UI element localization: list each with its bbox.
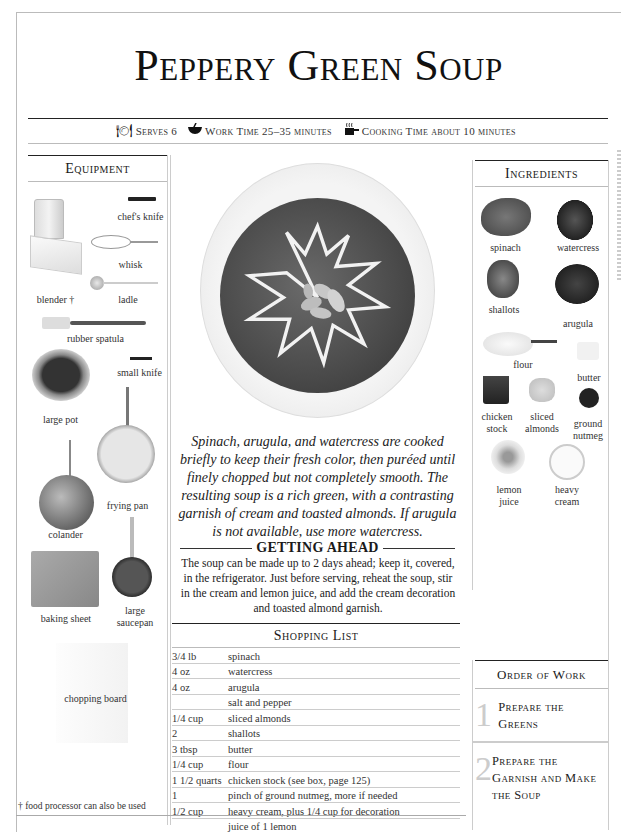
equipment-label-frying-pan: frying pan	[100, 500, 155, 512]
shopping-row: salt and pepper	[172, 695, 460, 711]
colander-image	[39, 475, 94, 530]
serves-info: 🍽 Serves 6	[116, 123, 177, 139]
equipment-label-large-pot: large pot	[33, 414, 88, 426]
step-text: Prepare the Garnish and Make the Soup	[492, 753, 604, 804]
equipment-label-baking-sheet: baking sheet	[30, 613, 102, 625]
ingredient-label-butter: butter	[569, 372, 609, 384]
chicken-stock-image	[483, 376, 509, 404]
ingredient-label-flour: flour	[503, 359, 543, 371]
shopping-row: 4 ozarugula	[172, 679, 460, 695]
lemon-juice-image	[491, 440, 525, 474]
qty: 1/4 cup	[172, 713, 228, 724]
equipment-footnote: † food processor can also be used	[18, 801, 146, 811]
qty: 1/4 cup	[172, 759, 228, 770]
equipment-label-large-saucepan: large saucepan	[110, 605, 160, 628]
shopping-row: 1 1/2 quartschicken stock (see box, page…	[172, 772, 460, 788]
cream-star-garnish-image	[240, 220, 395, 375]
flour-image	[483, 332, 533, 356]
equipment-label-ladle: ladle	[108, 294, 148, 306]
watercress-image	[557, 200, 593, 240]
getting-ahead-text: The soup can be made up to 2 days ahead;…	[178, 556, 458, 616]
frying-pan-handle-image	[126, 387, 129, 429]
shallots-image	[487, 260, 519, 298]
ground-nutmeg-image	[579, 388, 599, 408]
equipment-label-rubber-spatula: rubber spatula	[53, 333, 138, 345]
qty: 4 oz	[172, 666, 228, 677]
ladle-image	[90, 276, 104, 290]
rule-left	[180, 548, 252, 549]
step-number: 2	[475, 753, 492, 804]
small-knife-image	[130, 357, 152, 360]
arugula-image	[555, 264, 599, 304]
ingredient-label-watercress: watercress	[549, 242, 607, 254]
order-of-work-section: Order of Work 1 Prepare the Greens 2 Pre…	[472, 660, 608, 830]
shopping-list: Shopping List 3/4 lbspinach 4 ozwatercre…	[172, 623, 460, 832]
item: juice of 1 lemon	[228, 821, 460, 832]
column-divider	[170, 155, 171, 825]
qty: 1	[172, 790, 228, 801]
item: pinch of ground nutmeg, more if needed	[228, 790, 460, 801]
order-step-1[interactable]: 1 Prepare the Greens	[473, 689, 608, 743]
blender-base-image	[30, 235, 82, 274]
whisk-handle-image	[130, 241, 158, 243]
item: arugula	[228, 682, 460, 693]
chefs-knife-image	[128, 197, 156, 201]
rule-right	[383, 548, 455, 549]
qty: 1 1/2 quarts	[172, 775, 228, 786]
ingredient-label-sliced-almonds: sliced almonds	[521, 411, 563, 434]
step-text: Prepare the Greens	[498, 699, 604, 733]
blender-image	[34, 199, 64, 239]
qty: 2	[172, 728, 228, 739]
large-saucepan-handle-image	[130, 517, 134, 561]
ingredient-label-shallots: shallots	[483, 304, 525, 316]
steaming-pot-icon	[342, 122, 360, 140]
ingredient-label-lemon-juice: lemon juice	[491, 484, 527, 507]
large-saucepan-image	[112, 557, 152, 597]
recipe-title: Peppery Green Soup	[16, 40, 621, 91]
shopping-row: 1/4 cupflour	[172, 757, 460, 773]
spinach-image	[481, 198, 531, 236]
baking-sheet-image	[31, 551, 99, 607]
ingredient-label-spinach: spinach	[483, 242, 528, 254]
shopping-row: 1/4 cupsliced almonds	[172, 710, 460, 726]
sliced-almonds-image	[529, 378, 555, 402]
item: chicken stock (see box, page 125)	[228, 775, 460, 786]
equipment-label-colander: colander	[38, 529, 93, 541]
item: spinach	[228, 651, 460, 662]
equipment-label-small-knife: small knife	[112, 367, 167, 379]
item: flour	[228, 759, 460, 770]
equipment-section: Equipment chef's knife blender † whisk l…	[28, 155, 168, 825]
frying-pan-image	[97, 425, 155, 483]
large-pot-image	[32, 349, 90, 401]
getting-ahead-title: GETTING AHEAD	[252, 540, 383, 556]
equipment-label-blender: blender †	[28, 294, 83, 306]
rubber-spatula-handle-image	[70, 321, 146, 325]
page-edge	[617, 150, 621, 280]
item: sliced almonds	[228, 713, 460, 724]
shopping-row: 4 ozwatercress	[172, 664, 460, 680]
item: salt and pepper	[228, 697, 460, 708]
ingredient-label-heavy-cream: heavy cream	[547, 484, 587, 507]
equipment-label-chopping-board: chopping board	[53, 693, 138, 705]
equipment-label-whisk: whisk	[108, 259, 153, 271]
ingredients-right-border	[608, 160, 609, 830]
qty: 4 oz	[172, 682, 228, 693]
cooking-time-info: Cooking Time about 10 minutes	[342, 122, 516, 140]
shopping-row: 3/4 lbspinach	[172, 648, 460, 664]
bottom-rule	[16, 815, 466, 816]
heavy-cream-image	[549, 444, 585, 480]
rubber-spatula-image	[42, 317, 70, 329]
place-setting-icon: 🍽	[116, 123, 133, 139]
shopping-row: 1pinch of ground nutmeg, more if needed	[172, 788, 460, 804]
order-step-2[interactable]: 2 Prepare the Garnish and Make the Soup	[473, 743, 608, 812]
ingredient-label-chicken-stock: chicken stock	[477, 411, 517, 434]
ingredient-label-arugula: arugula	[555, 318, 601, 330]
item: butter	[228, 744, 460, 755]
ingredient-label-ground-nutmeg: ground nutmeg	[567, 418, 609, 441]
item: shallots	[228, 728, 460, 739]
ingredients-section: Ingredients spinach watercress shallots …	[472, 160, 608, 590]
order-of-work-heading: Order of Work	[475, 660, 608, 689]
ingredients-heading: Ingredients	[475, 160, 608, 187]
ladle-handle-image	[103, 282, 158, 284]
item: watercress	[228, 666, 460, 677]
